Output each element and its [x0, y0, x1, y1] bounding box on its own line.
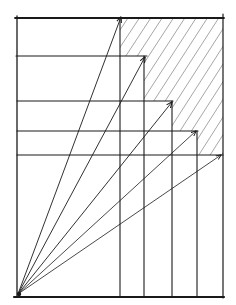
- frame: [14, 14, 224, 298]
- origin-point: [17, 292, 21, 296]
- vertical-lines: [120, 18, 197, 297]
- arrow-2: [18, 57, 145, 294]
- diagram-canvas: [0, 0, 236, 305]
- vector-diagram: [0, 0, 236, 305]
